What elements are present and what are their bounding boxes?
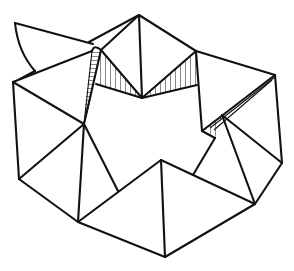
curved-leaf-flap: [15, 23, 93, 79]
polyhedral-net-diagram: [0, 0, 294, 271]
bottom-pyramid: [78, 160, 255, 257]
hatched-triangle-left: [96, 50, 142, 98]
